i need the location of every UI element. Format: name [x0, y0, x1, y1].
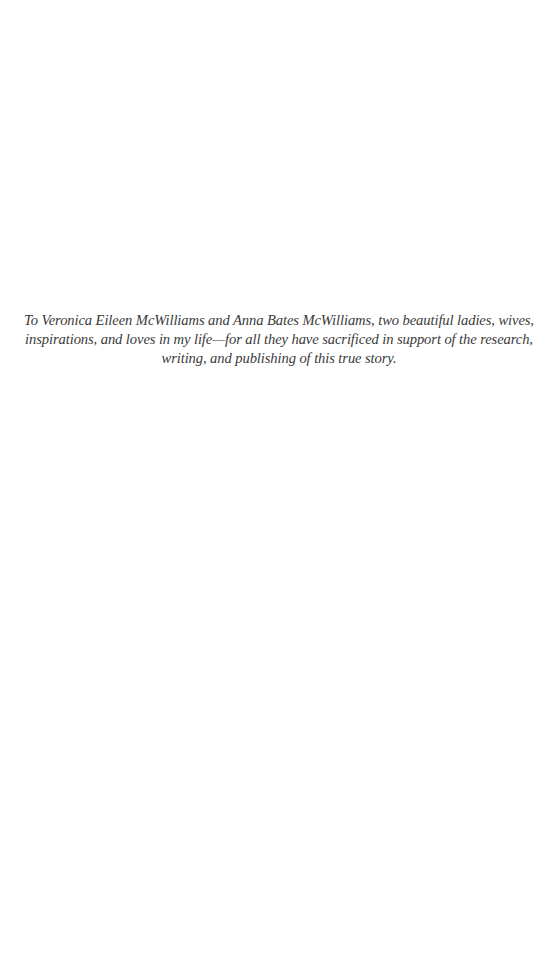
book-page: To Veronica Eileen McWilliams and Anna B… — [0, 0, 558, 956]
dedication-line-3: writing, and publishing of this true sto… — [24, 349, 534, 368]
dedication-text: To Veronica Eileen McWilliams and Anna B… — [24, 311, 534, 368]
dedication-line-2: inspirations, and loves in my life—for a… — [24, 330, 534, 349]
dedication-line-1: To Veronica Eileen McWilliams and Anna B… — [24, 311, 534, 330]
